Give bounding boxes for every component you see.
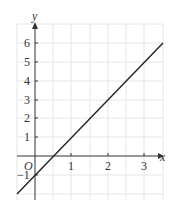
line-chart: x y O 1 2 3 6 5 4 3 2 1 −1 bbox=[0, 0, 171, 204]
y-axis-label: y bbox=[31, 9, 38, 23]
x-tick-1: 1 bbox=[68, 159, 74, 173]
axes bbox=[17, 28, 158, 200]
y-tick-4: 4 bbox=[24, 74, 30, 88]
y-tick-2: 2 bbox=[24, 111, 30, 125]
y-tick-3: 3 bbox=[24, 93, 30, 107]
grid bbox=[17, 24, 163, 200]
y-tick-neg1: −1 bbox=[17, 168, 30, 182]
y-axis-arrow-icon bbox=[32, 22, 38, 29]
x-tick-3: 3 bbox=[141, 159, 147, 173]
y-tick-6: 6 bbox=[24, 36, 30, 50]
x-tick-2: 2 bbox=[105, 159, 111, 173]
y-tick-1: 1 bbox=[24, 130, 30, 144]
x-axis-label: x bbox=[159, 150, 166, 164]
y-tick-5: 5 bbox=[24, 55, 30, 69]
